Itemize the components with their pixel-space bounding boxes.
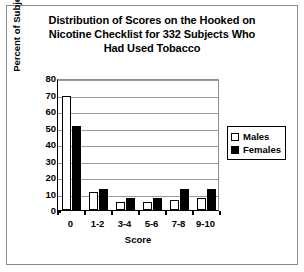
bar-males-9-10 xyxy=(197,198,206,210)
y-axis-tick-labels: 80706050403020100 xyxy=(18,79,56,211)
bar-females-3-4 xyxy=(126,198,135,210)
legend-label-males: Males xyxy=(243,131,269,142)
x-axis-tick-mark xyxy=(138,211,140,215)
bar-males-5-6 xyxy=(143,202,152,210)
chart-title-line-2: Nicotine Checklist for 332 Subjects Who xyxy=(14,27,290,41)
bar-females-5-6 xyxy=(153,198,162,210)
x-axis-tick-label: 9-10 xyxy=(192,218,219,229)
x-axis-tick-mark xyxy=(111,211,113,215)
legend-swatch-females-icon xyxy=(231,146,239,154)
chart-title-line-3: Had Used Tobacco xyxy=(14,41,290,55)
y-axis-tick-label: 40 xyxy=(22,140,56,150)
y-axis-tick-label: 50 xyxy=(22,124,56,134)
x-axis-tick-label: 1-2 xyxy=(84,218,111,229)
x-axis-tick-mark xyxy=(57,211,59,215)
y-axis-tick-label: 20 xyxy=(22,173,56,183)
y-axis-tick-label: 70 xyxy=(22,91,56,101)
y-axis-title: Percent of Subjects xyxy=(11,0,22,80)
bars-layer xyxy=(58,80,218,210)
x-axis-tick-mark xyxy=(84,211,86,215)
x-axis-tick-label: 5-6 xyxy=(138,218,165,229)
legend-swatch-males-icon xyxy=(231,133,239,141)
legend-item-females: Females xyxy=(231,143,281,156)
legend-item-males: Males xyxy=(231,130,281,143)
y-axis-tick-label: 10 xyxy=(22,190,56,200)
bar-females-9-10 xyxy=(207,189,216,210)
chart-figure: Distribution of Scores on the Hooked on … xyxy=(0,0,304,272)
bar-females-0 xyxy=(72,126,81,210)
x-axis-tick-label: 3-4 xyxy=(111,218,138,229)
legend-label-females: Females xyxy=(243,144,281,155)
x-axis-tick-label: 0 xyxy=(57,218,84,229)
y-axis-tick-label: 30 xyxy=(22,157,56,167)
x-axis-tick-label: 7-8 xyxy=(165,218,192,229)
y-axis-tick-label: 60 xyxy=(22,107,56,117)
chart-title-line-1: Distribution of Scores on the Hooked on xyxy=(14,13,290,27)
x-axis-tick-mark xyxy=(192,211,194,215)
bar-males-7-8 xyxy=(170,200,179,210)
bar-males-3-4 xyxy=(116,202,125,210)
x-axis-title: Score xyxy=(57,234,219,245)
y-axis-tick-label: 0 xyxy=(22,206,56,216)
bar-males-0 xyxy=(62,96,71,210)
x-axis-tick-mark xyxy=(219,211,221,215)
bar-males-1-2 xyxy=(89,192,98,210)
y-axis-tick-label: 80 xyxy=(22,74,56,84)
chart-title: Distribution of Scores on the Hooked on … xyxy=(14,13,290,55)
x-axis-tick-mark xyxy=(165,211,167,215)
chart-legend: Males Females xyxy=(227,126,286,160)
plot-area xyxy=(57,79,219,211)
bar-females-1-2 xyxy=(99,189,108,210)
bar-females-7-8 xyxy=(180,189,189,210)
